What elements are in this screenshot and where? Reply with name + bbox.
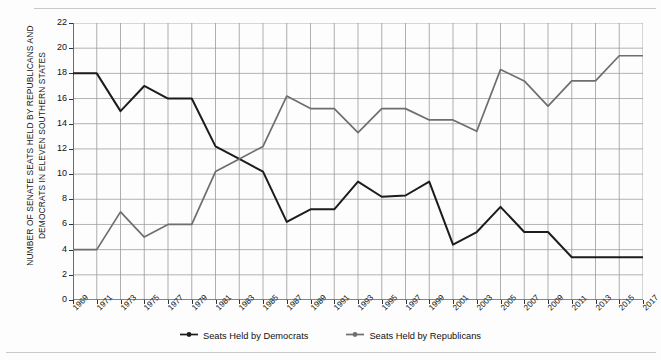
chart-legend: Seats Held by DemocratsSeats Held by Rep…	[0, 330, 661, 341]
x-axis-tick-mark	[311, 300, 312, 304]
legend-item-republicans[interactable]: Seats Held by Republicans	[346, 330, 481, 341]
x-axis-tick-mark	[572, 300, 573, 304]
y-axis-tick: 14	[45, 118, 67, 128]
y-axis-tick: 8	[45, 193, 67, 203]
top-divider-rule	[34, 8, 656, 9]
legend-item-label: Seats Held by Democrats	[203, 331, 308, 341]
x-axis-tick-mark	[406, 300, 407, 304]
x-axis-tick-mark	[263, 300, 264, 304]
x-axis-tick-mark	[73, 300, 74, 304]
x-axis-tick-mark	[548, 300, 549, 304]
chart-figure: NUMBER OF SENATE SEATS HELD BY REPUBLICA…	[0, 0, 661, 360]
y-axis-tick: 20	[45, 42, 67, 52]
x-axis-tick-mark	[596, 300, 597, 304]
y-axis-tick: 6	[45, 218, 67, 228]
y-axis-tick: 0	[45, 294, 67, 304]
plot-area	[73, 23, 643, 300]
legend-item-label: Seats Held by Republicans	[369, 331, 481, 341]
line-marker-icon	[346, 330, 364, 341]
y-axis-tick: 16	[45, 93, 67, 103]
y-axis-tick: 4	[45, 244, 67, 254]
x-axis-tick-mark	[168, 300, 169, 304]
y-axis-tick: 10	[45, 168, 67, 178]
x-axis-tick-mark	[192, 300, 193, 304]
line-marker-icon	[180, 330, 198, 341]
x-axis-tick-mark	[477, 300, 478, 304]
x-axis-tick-mark	[239, 300, 240, 304]
y-axis-tick: 2	[45, 269, 67, 279]
y-axis-tick: 12	[45, 143, 67, 153]
x-axis-tick-mark	[144, 300, 145, 304]
x-axis-tick-mark	[453, 300, 454, 304]
x-axis-tick-mark	[287, 300, 288, 304]
x-axis-tick-mark	[619, 300, 620, 304]
bottom-divider-rule	[6, 352, 656, 353]
x-axis-tick-mark	[216, 300, 217, 304]
legend-item-democrats[interactable]: Seats Held by Democrats	[180, 330, 308, 341]
x-axis-tick-mark	[382, 300, 383, 304]
x-axis-tick-mark	[524, 300, 525, 304]
x-axis-tick-mark	[643, 300, 644, 304]
x-axis-tick-mark	[501, 300, 502, 304]
x-axis-tick-mark	[121, 300, 122, 304]
plot-svg	[73, 23, 643, 300]
x-axis-tick-mark	[97, 300, 98, 304]
gridlines	[73, 23, 643, 300]
x-axis-tick-mark	[429, 300, 430, 304]
x-axis-tick-mark	[334, 300, 335, 304]
x-axis-tick-mark	[358, 300, 359, 304]
y-axis-tick: 22	[45, 17, 67, 27]
y-axis-tick: 18	[45, 67, 67, 77]
